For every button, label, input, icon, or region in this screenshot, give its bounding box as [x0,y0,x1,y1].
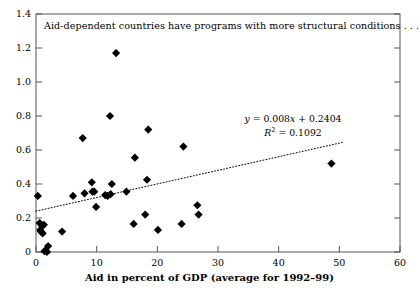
scatter-chart-figure: 00.20.40.60.81.01.21.4 0102030405060 Aid… [0,0,419,291]
regression-annotation: y = 0.008x + 0.2404 R2 = 0.1092 [228,113,358,139]
x-tick-label: 10 [77,258,117,268]
y-tick-label: 0.8 [16,111,31,121]
y-tick-label: 1.0 [16,77,31,87]
x-tick-label: 40 [259,258,299,268]
x-tick-label: 50 [319,258,359,268]
plot-canvas [0,0,419,291]
chart-title: Aid-dependent countries have programs wi… [44,20,394,31]
x-tick-label: 60 [380,258,419,268]
x-tick-label: 20 [137,258,177,268]
x-tick-label: 0 [16,258,56,268]
x-tick-label: 30 [198,258,238,268]
y-tick-label: 0.2 [16,213,31,223]
y-tick-label: 1.2 [16,43,31,53]
y-tick-label: 0.6 [16,145,31,155]
y-tick-label: 1.4 [16,9,31,19]
y-tick-label: 0.4 [16,179,31,189]
r-squared-value: R2 = 0.1092 [228,126,358,140]
x-axis-label: Aid in percent of GDP (average for 1992–… [0,272,419,283]
regression-equation: y = 0.008x + 0.2404 [228,113,358,126]
y-tick-label: 0 [25,247,31,257]
